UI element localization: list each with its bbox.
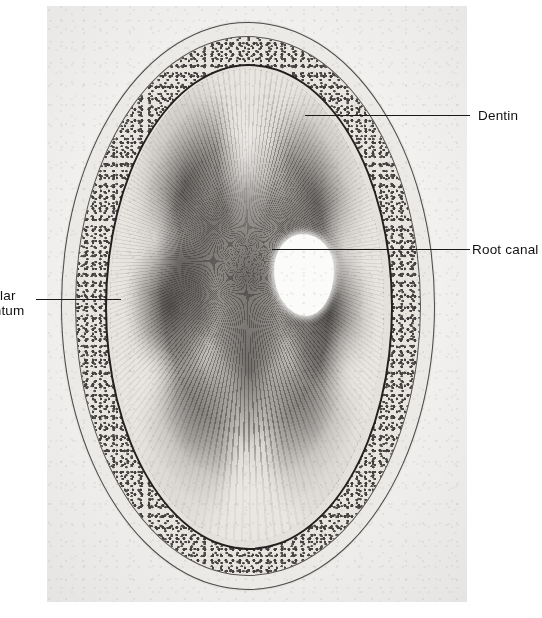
- label-acellular-cementum-line2: entum: [0, 303, 25, 318]
- label-dentin: Dentin: [478, 108, 518, 123]
- photomicrograph-plate: [47, 6, 467, 602]
- label-acellular-cementum-line1: llular: [0, 288, 25, 303]
- leader-line-dentin: [305, 115, 470, 116]
- label-root-canal: Root canal: [472, 242, 539, 257]
- leader-line-root-canal: [272, 249, 470, 250]
- plate-paper-grain: [47, 6, 467, 602]
- leader-line-acellular-cementum: [36, 299, 121, 300]
- figure-photomicrograph: Dentin Root canal llular entum: [0, 0, 542, 618]
- label-acellular-cementum: llular entum: [0, 288, 25, 318]
